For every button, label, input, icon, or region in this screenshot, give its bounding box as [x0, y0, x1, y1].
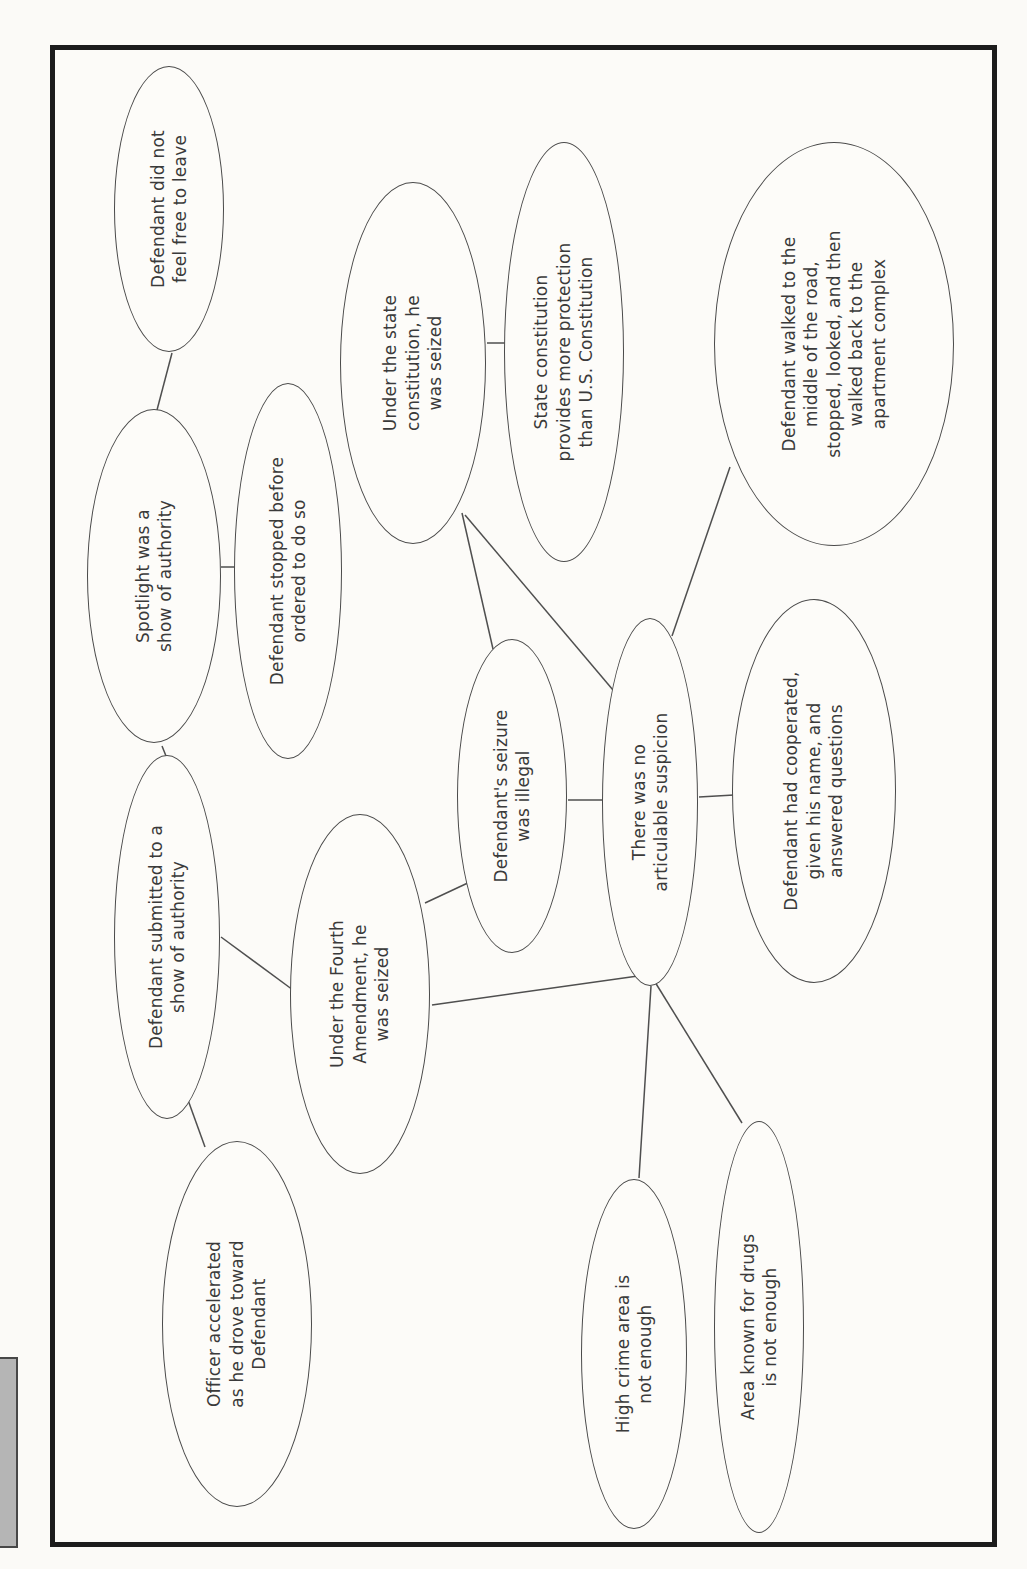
- page-edge-tab: [0, 1357, 18, 1548]
- page-frame: Defendant did not feel free to leaveSpot…: [50, 45, 997, 1547]
- node-label-walked-middle-road: Defendant walked to the middle of the ro…: [778, 222, 890, 465]
- node-spotlight-authority: Spotlight was a show of authority: [87, 409, 221, 743]
- node-walked-middle-road: Defendant walked to the middle of the ro…: [714, 142, 954, 546]
- edge-submitted-authority--officer-accelerated: [188, 1100, 205, 1147]
- node-submitted-authority: Defendant submitted to a show of authori…: [114, 755, 220, 1119]
- node-label-feel-free-to-leave: Defendant did not feel free to leave: [147, 122, 192, 296]
- node-label-state-constitution-seized: Under the state constitution, he was sei…: [379, 287, 446, 439]
- node-defendant-cooperated: Defendant had cooperated, given his name…: [732, 599, 896, 983]
- node-label-spotlight-authority: Spotlight was a show of authority: [132, 492, 177, 660]
- node-label-high-crime-area: High crime area is not enough: [612, 1267, 657, 1441]
- node-label-officer-accelerated: Officer accelerated as he drove toward D…: [203, 1232, 270, 1416]
- node-area-known-drugs: Area known for drugs is not enough: [714, 1121, 804, 1533]
- node-label-fourth-amendment-seized: Under the Fourth Amendment, he was seize…: [326, 912, 393, 1076]
- node-label-submitted-authority: Defendant submitted to a show of authori…: [145, 817, 190, 1057]
- node-label-defendant-cooperated: Defendant had cooperated, given his name…: [780, 663, 847, 918]
- node-label-no-articulable-suspicion: There was no articulable suspicion: [628, 705, 673, 900]
- edge-submitted-authority--fourth-amendment-seized: [221, 937, 293, 990]
- scan-page: { "page": { "background": "#fbfaf7", "fr…: [0, 0, 1027, 1569]
- node-feel-free-to-leave: Defendant did not feel free to leave: [114, 66, 224, 352]
- node-no-articulable-suspicion: There was no articulable suspicion: [602, 618, 698, 986]
- node-label-seizure-illegal: Defendant's seizure was illegal: [490, 702, 535, 891]
- edge-feel-free-to-leave--spotlight-authority: [157, 353, 172, 410]
- edge-fourth-amendment-seized--no-articulable-suspicion: [432, 975, 645, 1005]
- node-state-constitution-seized: Under the state constitution, he was sei…: [340, 182, 486, 544]
- edge-no-articulable-suspicion--defendant-cooperated: [699, 795, 734, 797]
- node-fourth-amendment-seized: Under the Fourth Amendment, he was seize…: [290, 814, 430, 1174]
- node-label-area-known-drugs: Area known for drugs is not enough: [737, 1226, 782, 1429]
- edge-no-articulable-suspicion--area-known-drugs: [655, 982, 742, 1123]
- diagram-stage: Defendant did not feel free to leaveSpot…: [55, 50, 992, 1542]
- edge-no-articulable-suspicion--high-crime-area: [639, 986, 651, 1178]
- node-officer-accelerated: Officer accelerated as he drove toward D…: [162, 1141, 312, 1507]
- node-state-more-protection: State constitution provides more protect…: [504, 142, 624, 562]
- edge-fourth-amendment-seized--seizure-illegal: [425, 881, 472, 903]
- node-stopped-before-ordered: Defendant stopped before ordered to do s…: [234, 383, 342, 759]
- node-seizure-illegal: Defendant's seizure was illegal: [457, 639, 567, 953]
- edge-walked-middle-road--no-articulable-suspicion: [672, 467, 730, 636]
- edge-state-constitution-seized--seizure-illegal: [462, 513, 493, 649]
- node-high-crime-area: High crime area is not enough: [581, 1179, 687, 1529]
- node-label-stopped-before-ordered: Defendant stopped before ordered to do s…: [266, 449, 311, 694]
- node-label-state-more-protection: State constitution provides more protect…: [530, 234, 597, 469]
